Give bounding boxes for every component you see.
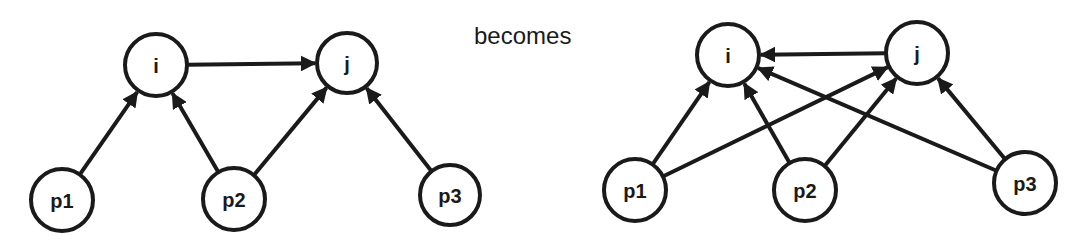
node-label: j <box>343 53 350 75</box>
right-node-p1: p1 <box>604 159 666 221</box>
right-graph: ijp1p2p3 <box>604 22 1056 221</box>
right-node-i: i <box>697 24 759 86</box>
left-edge-i-to-j <box>187 63 315 64</box>
right-node-p2: p2 <box>774 159 836 221</box>
left-node-p3: p3 <box>420 165 480 225</box>
graph-canvas: ijp1p2p3 ijp1p2p3 <box>0 0 1090 236</box>
node-label: i <box>153 55 159 77</box>
right-edge-p3-to-j <box>938 78 1005 159</box>
left-node-j: j <box>317 33 377 93</box>
node-label: i <box>725 45 731 67</box>
left-edge-p3-to-j <box>367 88 432 171</box>
node-label: p3 <box>1013 173 1036 195</box>
right-edge-p1-to-i <box>653 82 710 164</box>
right-node-p3: p3 <box>994 152 1056 214</box>
right-edge-p2-to-i <box>744 84 789 163</box>
left-node-p1: p1 <box>31 169 93 231</box>
left-node-p2: p2 <box>203 168 265 230</box>
right-edge-p3-to-i <box>758 68 996 171</box>
left-node-i: i <box>125 34 187 96</box>
node-label: p2 <box>222 189 245 211</box>
right-node-j: j <box>886 22 948 84</box>
right-edge-p1-to-j <box>663 67 887 176</box>
left-edge-p2-to-i <box>173 94 219 173</box>
left-edge-p1-to-i <box>80 92 137 174</box>
right-edge-j-to-i <box>761 53 886 54</box>
left-edge-p2-to-j <box>254 88 327 176</box>
node-label: p3 <box>438 185 461 207</box>
node-label: p1 <box>623 180 646 202</box>
node-label: p2 <box>793 180 816 202</box>
left-graph: ijp1p2p3 <box>31 33 480 231</box>
node-label: p1 <box>50 190 73 212</box>
node-label: j <box>913 43 920 65</box>
